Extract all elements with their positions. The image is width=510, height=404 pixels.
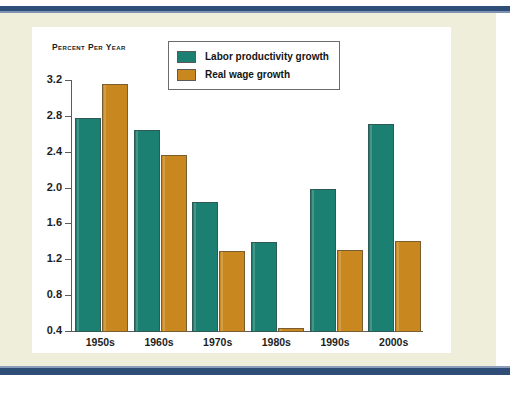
bar-1990s-labor-productivity-growth xyxy=(310,189,336,332)
figure-background-margin xyxy=(496,13,510,366)
bar-1970s-labor-productivity-growth xyxy=(192,202,218,332)
y-tick-label: 1.2 xyxy=(36,252,62,264)
bar-1990s-real-wage-growth xyxy=(337,250,363,332)
bar-1980s-real-wage-growth xyxy=(278,328,304,332)
x-tick-label-1970s: 1970s xyxy=(188,336,247,348)
y-tick xyxy=(65,259,72,260)
x-tick-label-1960s: 1960s xyxy=(130,336,189,348)
bar-2000s-labor-productivity-growth xyxy=(368,124,394,332)
bar-sheen xyxy=(370,125,372,331)
legend-label-real-wage-growth: Real wage growth xyxy=(205,69,290,80)
y-tick-label: 1.6 xyxy=(36,216,62,228)
x-tick-label-1950s: 1950s xyxy=(71,336,130,348)
bottom-rule xyxy=(0,368,510,375)
bar-1970s-real-wage-growth xyxy=(219,251,245,332)
bars-layer xyxy=(72,80,422,332)
y-tick-label: 3.2 xyxy=(36,73,62,85)
bar-1950s-labor-productivity-growth xyxy=(75,118,101,332)
bar-sheen xyxy=(194,203,196,331)
y-tick xyxy=(65,331,72,332)
legend-item-labor-productivity-growth: Labor productivity growth xyxy=(177,48,331,65)
bar-sheen xyxy=(253,243,255,331)
bar-sheen xyxy=(104,85,106,331)
x-tick-label-2000s: 2000s xyxy=(364,336,423,348)
y-tick xyxy=(65,188,72,189)
y-tick-label: 2.0 xyxy=(36,181,62,193)
bar-sheen xyxy=(221,252,223,331)
y-tick-label: 0.4 xyxy=(36,324,62,336)
x-tick-label-1980s: 1980s xyxy=(247,336,306,348)
bar-sheen xyxy=(339,251,341,331)
y-tick xyxy=(65,223,72,224)
bar-sheen xyxy=(163,156,165,331)
legend-label-labor-productivity-growth: Labor productivity growth xyxy=(205,51,329,62)
bar-1950s-real-wage-growth xyxy=(102,84,128,332)
bar-1980s-labor-productivity-growth xyxy=(251,242,277,332)
y-tick xyxy=(65,80,72,81)
bar-sheen xyxy=(312,190,314,331)
bar-2000s-real-wage-growth xyxy=(395,241,421,332)
bar-1960s-real-wage-growth xyxy=(161,155,187,332)
bar-sheen xyxy=(136,131,138,331)
bar-sheen xyxy=(77,119,79,331)
y-tick-label: 2.8 xyxy=(36,109,62,121)
bar-1960s-labor-productivity-growth xyxy=(134,130,160,332)
y-tick-label: 0.8 xyxy=(36,288,62,300)
y-tick xyxy=(65,152,72,153)
y-axis-title: Percent Per Year xyxy=(52,42,126,52)
legend-swatch-orange xyxy=(177,69,196,81)
legend-swatch-teal xyxy=(177,51,196,63)
y-tick xyxy=(65,116,72,117)
x-tick-label-1990s: 1990s xyxy=(306,336,365,348)
y-tick-label: 2.4 xyxy=(36,145,62,157)
y-tick xyxy=(65,295,72,296)
chart-figure: Percent Per Year Labor productivity grow… xyxy=(0,0,510,404)
bar-sheen xyxy=(397,242,399,331)
bar-sheen xyxy=(280,329,282,331)
